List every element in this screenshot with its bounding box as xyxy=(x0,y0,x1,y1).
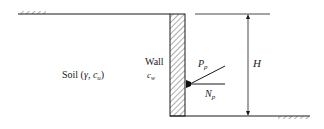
wall xyxy=(170,14,185,116)
height-dimension xyxy=(246,14,250,116)
wall-adhesion-label: cw xyxy=(147,70,155,81)
wall-label: Wall xyxy=(145,56,164,67)
ground-base xyxy=(170,116,310,119)
soil-label: Soil (γ, cu) xyxy=(62,69,104,82)
ground-hatch-right-icon xyxy=(278,116,310,119)
height-label: H xyxy=(252,57,262,69)
ground-surface-left xyxy=(18,11,170,14)
arrow-down-icon xyxy=(246,111,250,116)
normal-force-label: Np xyxy=(204,88,216,101)
passive-force-label: Pp xyxy=(197,58,208,71)
retaining-wall-diagram: Soil (γ, cu) Wall cw Pp Np H xyxy=(0,0,324,129)
arrow-up-icon xyxy=(246,14,250,19)
contact-point-arrowhead-icon xyxy=(186,80,191,88)
